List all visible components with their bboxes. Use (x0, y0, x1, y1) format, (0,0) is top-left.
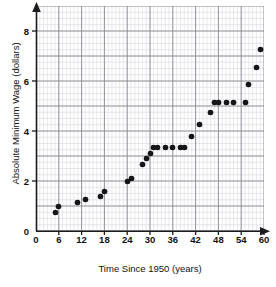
x-tick-label: 30 (145, 234, 156, 245)
data-point (216, 100, 221, 105)
x-tick-label: 12 (76, 234, 87, 245)
x-axis-title: Time Since 1950 (years) (36, 263, 264, 274)
x-tick-label: 36 (168, 234, 179, 245)
data-point (254, 65, 259, 70)
major-gridlines (36, 6, 264, 231)
data-point (56, 204, 61, 209)
x-tick-label: 54 (236, 234, 247, 245)
data-point (189, 134, 194, 139)
data-point (144, 156, 149, 161)
scatter-chart: 06121824303642485460 02468 Time Since 19… (0, 0, 276, 287)
x-tick-label: 60 (259, 234, 270, 245)
data-point (129, 176, 134, 181)
plot-area (36, 6, 264, 231)
x-tick-label: 48 (213, 234, 224, 245)
x-tick-label: 6 (56, 234, 61, 245)
data-point (98, 194, 103, 199)
data-point (258, 47, 263, 52)
data-point (224, 100, 229, 105)
data-point (182, 145, 187, 150)
x-tick-label: 24 (122, 234, 133, 245)
data-point (163, 145, 168, 150)
data-point (102, 189, 107, 194)
x-tick-label: 42 (190, 234, 201, 245)
data-point (243, 100, 248, 105)
data-point (148, 151, 153, 156)
x-tick-label: 0 (33, 234, 38, 245)
y-tick-label: 0 (13, 226, 29, 237)
y-axis-title: Absolute Minimum Wage (dollars) (10, 34, 21, 194)
data-point (53, 210, 58, 215)
data-point (231, 100, 236, 105)
x-tick-label: 18 (99, 234, 110, 245)
data-point (155, 145, 160, 150)
